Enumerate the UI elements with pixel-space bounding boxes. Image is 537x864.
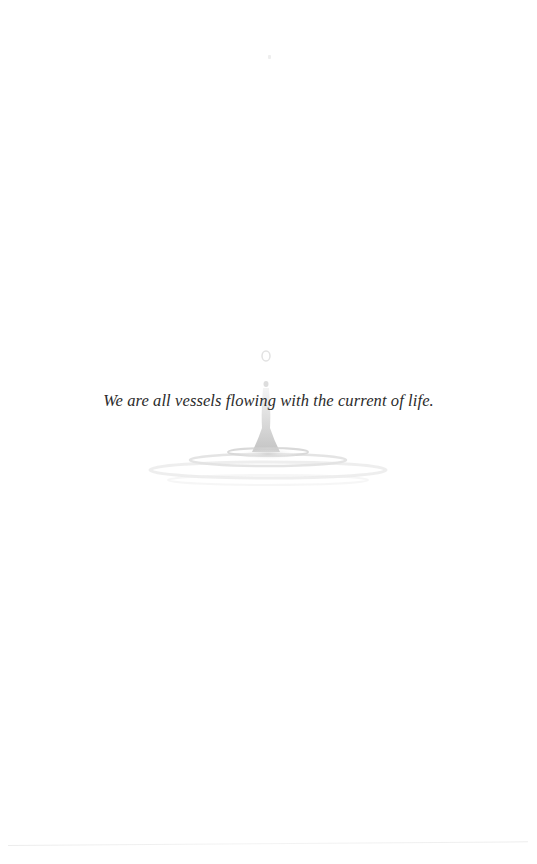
page-edge-line [8, 841, 528, 846]
document-page: We are all vessels flowing with the curr… [0, 0, 537, 864]
speck-mark [268, 55, 271, 59]
water-droplet-icon [140, 340, 400, 500]
quote-text: We are all vessels flowing with the curr… [0, 391, 537, 411]
